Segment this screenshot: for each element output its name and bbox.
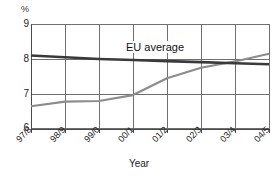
y-tick-label-7: 7	[13, 88, 29, 99]
eu-average-annotation: EU average	[124, 41, 186, 53]
gridline-x-7	[269, 24, 270, 129]
x-axis-title: Year	[0, 158, 278, 169]
y-tick-label-8: 8	[13, 53, 29, 64]
y-axis-unit-label: %	[21, 4, 29, 14]
chart-container: % 9 8 7 6 97/8 98/9 99/0 00/1 01/2 02/3 …	[0, 0, 278, 178]
line-eu-average	[31, 56, 269, 65]
series-lines	[31, 24, 269, 129]
y-tick-label-9: 9	[13, 18, 29, 29]
